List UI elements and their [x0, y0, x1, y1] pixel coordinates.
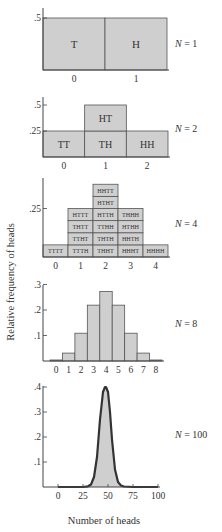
outcome-label: TTHT — [73, 235, 89, 242]
x-tick-label: 50 — [103, 491, 113, 501]
histogram-bar — [75, 333, 87, 361]
x-tick-label: 0 — [61, 161, 66, 171]
y-axis-title: Relative frequency of heads — [5, 223, 16, 341]
y-tick-label: .3 — [34, 407, 41, 417]
x-tick-label: 1 — [103, 161, 108, 171]
outcome-label: TTTH — [73, 247, 89, 254]
chart-panel-n1: T0H1.5N = 1 — [34, 8, 197, 84]
outcome-label: T — [71, 38, 78, 50]
outcome-label: HTTT — [73, 211, 89, 218]
outcome-label: TH — [99, 139, 112, 150]
histogram-bar — [100, 291, 112, 361]
outcome-label: HHHT — [122, 247, 139, 254]
histogram-bar — [112, 305, 124, 361]
coin-flip-distribution-figure: T0H1.5N = 1TT0THHT1HH2.5.25N = 2TTTT0TTT… — [0, 0, 222, 532]
x-tick-label: 7 — [141, 365, 146, 375]
x-tick-label: 1 — [134, 74, 139, 84]
outcome-label: TT — [58, 139, 70, 150]
histogram-bar — [87, 305, 99, 361]
outcome-label: TTHH — [97, 223, 114, 230]
x-tick-label: 2 — [145, 161, 150, 171]
x-tick-label: 8 — [153, 365, 158, 375]
y-tick-label: .1 — [34, 457, 41, 467]
y-tick-label: .2 — [34, 432, 41, 442]
x-tick-label: 1 — [78, 261, 83, 271]
chart-panel-n8: 012345678.3.2.1N = 8 — [34, 280, 197, 376]
outcome-label: THTH — [97, 235, 114, 242]
x-tick-label: 0 — [72, 74, 77, 84]
y-tick-label: .4 — [34, 382, 41, 392]
outcome-label: HHHH — [147, 247, 165, 254]
y-tick-label: .3 — [34, 280, 41, 290]
x-tick-label: 25 — [78, 491, 88, 501]
outcome-label: HTHT — [97, 199, 114, 206]
y-tick-label: .5 — [34, 13, 41, 23]
histogram-bar — [137, 353, 149, 361]
chart-panel-n100: 0255075100.4.3.2.1N = 100 — [34, 382, 207, 501]
x-axis-title: Number of heads — [68, 515, 140, 526]
outcome-label: THTT — [73, 223, 89, 230]
x-tick-label: 75 — [128, 491, 138, 501]
sample-size-label: N = 1 — [174, 38, 197, 49]
outcome-label: HHTH — [122, 235, 140, 242]
chart-panels: T0H1.5N = 1TT0THHT1HH2.5.25N = 2TTTT0TTT… — [29, 8, 207, 501]
sample-size-label: N = 8 — [174, 318, 197, 329]
chart-panel-n4: TTTT0TTTHTTHTTHTTHTTT1THHTTHTHTTHHHTTHHT… — [29, 178, 197, 271]
outcome-label: HH — [140, 139, 154, 150]
outcome-label: THHH — [122, 211, 140, 218]
x-tick-label: 4 — [104, 365, 109, 375]
outcome-label: HHTT — [97, 187, 114, 194]
outcome-label: HT — [99, 113, 112, 124]
y-tick-label: .25 — [29, 204, 41, 214]
x-tick-label: 5 — [116, 365, 121, 375]
outcome-label: H — [132, 38, 140, 50]
x-tick-label: 3 — [91, 365, 96, 375]
chart-panel-n2: TT0THHT1HH2.5.25N = 2 — [29, 97, 197, 171]
sample-size-label: N = 4 — [174, 218, 197, 229]
x-tick-label: 4 — [153, 261, 158, 271]
x-tick-label: 6 — [129, 365, 134, 375]
x-tick-label: 0 — [53, 261, 58, 271]
x-tick-label: 0 — [54, 365, 59, 375]
sample-size-label: N = 100 — [174, 429, 207, 440]
histogram-bar — [62, 353, 74, 361]
x-tick-label: 100 — [151, 491, 166, 501]
x-tick-label: 1 — [66, 365, 71, 375]
outcome-label: TTTT — [48, 247, 63, 254]
outcome-label: THHT — [97, 247, 114, 254]
y-tick-label: .25 — [29, 126, 41, 136]
x-tick-label: 2 — [79, 365, 84, 375]
sample-size-label: N = 2 — [174, 123, 197, 134]
x-tick-label: 0 — [56, 491, 61, 501]
outcome-label: HTTH — [97, 211, 114, 218]
outcome-label: HTHH — [122, 223, 140, 230]
y-tick-label: .1 — [34, 331, 41, 341]
histogram-bar — [125, 333, 137, 361]
y-tick-label: .5 — [34, 100, 41, 110]
y-tick-label: .2 — [34, 305, 41, 315]
x-tick-label: 3 — [128, 261, 133, 271]
x-tick-label: 2 — [103, 261, 108, 271]
